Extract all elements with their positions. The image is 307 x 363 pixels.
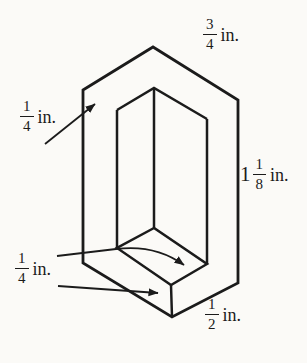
unit-text: in. — [270, 166, 289, 184]
fraction-denominator: 2 — [205, 314, 219, 332]
fraction-right: 1 8 — [253, 157, 267, 192]
fraction-bottom-left: 1 4 — [15, 251, 29, 286]
dimension-label-left: 1 4 in. — [20, 99, 56, 134]
inner-bottom-edges — [117, 228, 207, 285]
bottom-left-straight-arrow — [58, 286, 158, 293]
fraction-numerator: 3 — [203, 17, 217, 34]
figure-container: 3 4 in. 1 4 in. 1 1 8 in. 1 4 in. 1 2 — [0, 0, 307, 363]
fraction-denominator: 4 — [203, 34, 217, 52]
fraction-top: 3 4 — [203, 17, 217, 52]
front-corner-edge — [171, 285, 172, 317]
fraction-numerator: 1 — [20, 99, 34, 116]
fraction-numerator: 1 — [253, 157, 267, 174]
fraction-left: 1 4 — [20, 99, 34, 134]
dimension-label-top: 3 4 in. — [203, 17, 239, 52]
fraction-denominator: 4 — [20, 116, 34, 134]
fraction-numerator: 1 — [15, 251, 29, 268]
unit-text: in. — [221, 26, 240, 44]
dimension-label-right: 1 1 8 in. — [240, 157, 289, 192]
unit-text: in. — [38, 108, 57, 126]
dimension-label-bottom-right: 1 2 in. — [205, 297, 241, 332]
fraction-denominator: 4 — [15, 268, 29, 286]
dimension-label-bottom-left: 1 4 in. — [15, 251, 51, 286]
whole-number: 1 — [240, 164, 251, 185]
fraction-numerator: 1 — [205, 297, 219, 314]
unit-text: in. — [223, 306, 242, 324]
top-opening-edges — [117, 88, 207, 119]
unit-text: in. — [33, 260, 52, 278]
fraction-bottom-right: 1 2 — [205, 297, 219, 332]
fraction-denominator: 8 — [253, 174, 267, 192]
